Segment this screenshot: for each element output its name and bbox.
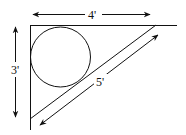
left-length-label: 3': [11, 63, 19, 77]
triangle-diagram: 4' 3' 5': [0, 0, 186, 135]
hypotenuse: [30, 25, 156, 119]
hypotenuse-length-label: 5': [96, 75, 104, 89]
top-length-label: 4': [88, 8, 96, 22]
inscribed-circle: [31, 27, 91, 87]
